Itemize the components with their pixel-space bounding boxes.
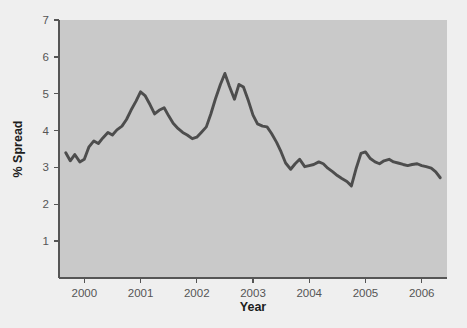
x-tick-label: 2005 xyxy=(353,287,379,299)
y-axis-ticks: 1234567 xyxy=(43,14,59,247)
x-axis-title: Year xyxy=(240,300,267,314)
y-tick-label: 3 xyxy=(43,161,49,173)
x-tick-label: 2003 xyxy=(240,287,266,299)
y-tick-label: 5 xyxy=(43,88,49,100)
y-tick-label: 6 xyxy=(43,51,49,63)
x-tick-label: 2001 xyxy=(128,287,154,299)
y-tick-label: 2 xyxy=(43,198,49,210)
x-tick-label: 2002 xyxy=(184,287,210,299)
chart-figure: 1234567 2000200120022003200420052006 Yea… xyxy=(0,0,467,328)
x-tick-label: 2000 xyxy=(72,287,98,299)
y-tick-label: 7 xyxy=(43,14,49,26)
x-axis-ticks: 2000200120022003200420052006 xyxy=(72,278,435,299)
x-tick-label: 2006 xyxy=(409,287,435,299)
x-tick-label: 2004 xyxy=(296,287,322,299)
y-axis-title: % Spread xyxy=(11,121,25,178)
line-chart: 1234567 2000200120022003200420052006 Yea… xyxy=(0,0,467,328)
y-tick-label: 4 xyxy=(43,125,50,137)
plot-area-background xyxy=(59,20,447,278)
y-tick-label: 1 xyxy=(43,235,49,247)
